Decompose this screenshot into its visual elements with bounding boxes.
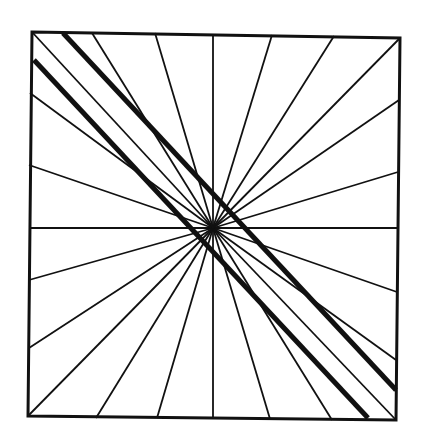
ray-line xyxy=(29,228,213,348)
ray-line xyxy=(213,36,334,228)
illusion-figure xyxy=(0,0,427,437)
thick-diagonal-line xyxy=(34,60,368,418)
ray-line xyxy=(213,228,396,420)
ray-line xyxy=(32,32,213,228)
ray-line xyxy=(30,93,213,228)
radiating-lines xyxy=(28,32,400,420)
thick-diagonal-line xyxy=(63,33,396,390)
ray-line xyxy=(29,165,213,228)
ray-line xyxy=(213,100,399,228)
